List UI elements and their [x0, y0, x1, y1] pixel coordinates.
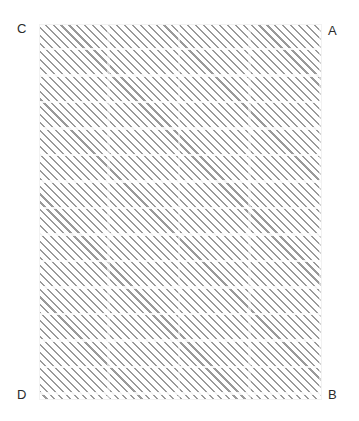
- vertex-label-a: A: [328, 24, 337, 37]
- hatched-region-outline: [39, 24, 322, 400]
- figure-canvas: C A D B: [0, 0, 359, 421]
- vertex-label-b: B: [328, 388, 337, 401]
- hatched-region: [39, 24, 322, 400]
- hatch-texture-seams: [39, 24, 322, 400]
- vertex-label-d: D: [17, 388, 26, 401]
- vertex-label-c: C: [17, 22, 26, 35]
